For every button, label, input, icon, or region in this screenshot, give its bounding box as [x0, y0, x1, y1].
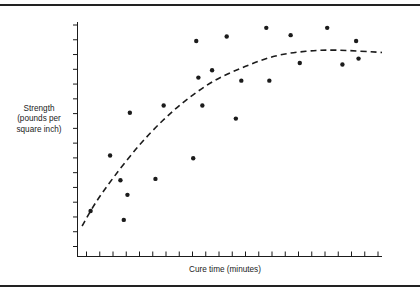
data-point [325, 26, 329, 30]
data-point [122, 218, 126, 222]
figure-container: Strength (pounds per square inch) Cure t… [0, 0, 420, 299]
data-point [267, 78, 271, 82]
data-point [196, 75, 200, 79]
data-point [298, 61, 302, 65]
data-point [191, 156, 195, 160]
data-point [340, 62, 344, 66]
trend-curve [82, 50, 382, 226]
data-point [225, 34, 229, 38]
scatter-plot [0, 0, 420, 299]
x-axis-ticks [87, 252, 379, 257]
x-axis-label: Cure time (minutes) [150, 265, 300, 274]
data-point [153, 177, 157, 181]
data-point [128, 111, 132, 115]
data-point [108, 153, 112, 157]
data-point [234, 116, 238, 120]
data-point [200, 103, 204, 107]
data-point [239, 78, 243, 82]
data-point [264, 26, 268, 30]
data-point [288, 33, 292, 37]
data-point [161, 103, 165, 107]
y-axis-label: Strength (pounds per square inch) [6, 104, 72, 135]
data-point [194, 39, 198, 43]
data-point [210, 68, 214, 72]
data-point [88, 209, 92, 213]
data-point [118, 178, 122, 182]
data-point [356, 56, 360, 60]
data-point-group [88, 26, 360, 222]
data-point [125, 193, 129, 197]
y-axis-ticks [73, 25, 78, 247]
data-point [354, 39, 358, 43]
